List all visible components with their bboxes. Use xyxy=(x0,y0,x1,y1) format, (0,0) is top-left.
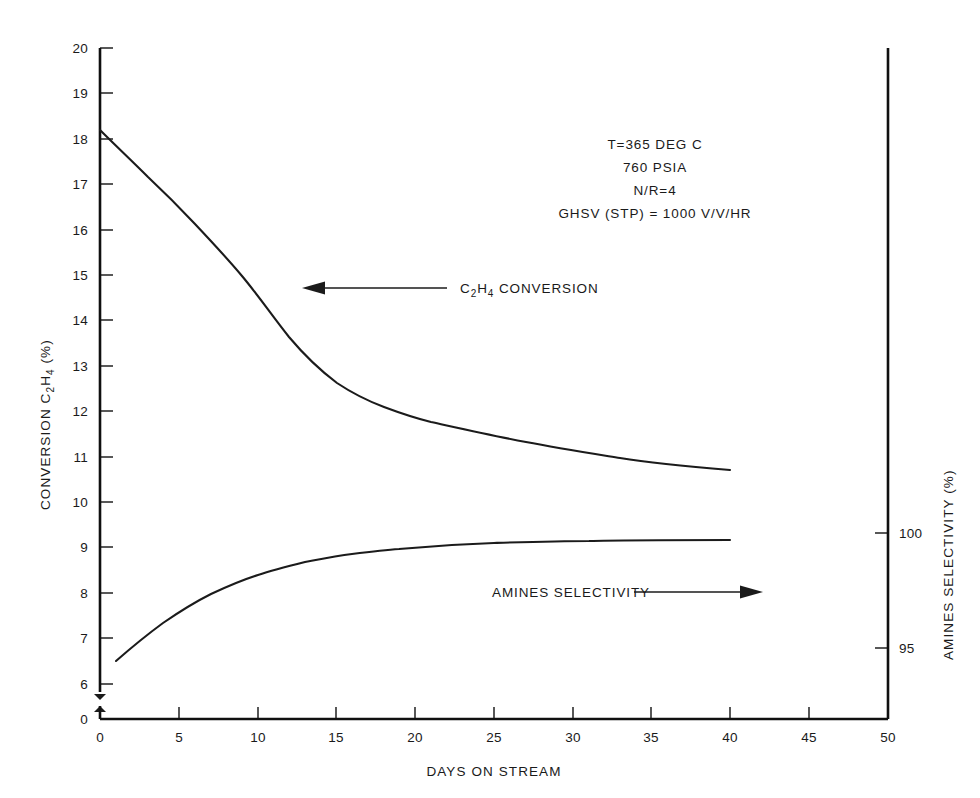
x-axis: 0 5 10 15 20 25 30 35 40 45 50 DAYS ON S… xyxy=(96,707,896,779)
y-ticklabel-6: 6 xyxy=(80,677,88,692)
y-ticklabel-15: 15 xyxy=(73,268,88,283)
y-ticklabel-14: 14 xyxy=(73,313,89,328)
y-axis-left-title: CONVERSION C2H4 (%) xyxy=(38,339,56,510)
callout-conversion-h: H xyxy=(477,281,488,296)
y-ticklabel-20: 20 xyxy=(73,41,88,56)
conditions-annotation: T=365 DEG C 760 PSIA N/R=4 GHSV (STP) = … xyxy=(558,137,751,221)
x-ticklabel-50: 50 xyxy=(880,730,895,745)
condition-nr-ratio: N/R=4 xyxy=(633,183,676,198)
y-axis-left-title-sub1: 2 xyxy=(45,386,56,393)
y-right-ticklabel-100: 100 xyxy=(899,526,922,541)
y-right-ticklabel-95: 95 xyxy=(899,641,914,656)
x-axis-title: DAYS ON STREAM xyxy=(426,764,561,779)
x-ticklabel-45: 45 xyxy=(801,730,816,745)
callout-conversion-suffix: CONVERSION xyxy=(494,281,598,296)
y-axis-left-title-pre: CONVERSION C xyxy=(38,393,53,510)
y-ticklabel-7: 7 xyxy=(80,631,88,646)
callout-selectivity: AMINES SELECTIVITY xyxy=(492,585,763,600)
x-ticklabel-0: 0 xyxy=(96,730,104,745)
svg-text:AMINES SELECTIVITY (%): AMINES SELECTIVITY (%) xyxy=(941,470,956,661)
condition-ghsv: GHSV (STP) = 1000 V/V/HR xyxy=(558,206,751,221)
y-axis-right-title: AMINES SELECTIVITY (%) xyxy=(941,470,956,661)
condition-temperature: T=365 DEG C xyxy=(607,137,702,152)
y-ticklabel-18: 18 xyxy=(73,132,88,147)
x-ticklabel-5: 5 xyxy=(175,730,183,745)
y-ticklabel-10: 10 xyxy=(73,495,88,510)
y-ticklabel-19: 19 xyxy=(73,86,88,101)
y-axis-right: 100 95 AMINES SELECTIVITY (%) xyxy=(875,48,956,719)
x-ticklabel-30: 30 xyxy=(565,730,580,745)
right-arrow-icon xyxy=(740,586,763,599)
left-arrow-icon xyxy=(302,282,325,295)
y-ticklabel-8: 8 xyxy=(80,586,88,601)
x-ticklabel-40: 40 xyxy=(722,730,737,745)
svg-text:CONVERSION C2H4 (%): CONVERSION C2H4 (%) xyxy=(38,339,56,510)
callout-conversion-label: C2H4 CONVERSION xyxy=(460,281,599,299)
y-ticklabel-11: 11 xyxy=(74,450,88,465)
y-ticklabel-12: 12 xyxy=(73,404,88,419)
y-ticklabel-0: 0 xyxy=(80,712,88,727)
y-ticklabel-13: 13 xyxy=(73,359,88,374)
y-axis-left-title-post: (%) xyxy=(38,339,53,368)
chart-svg: 20 19 18 17 16 15 14 13 12 11 10 9 8 7 6… xyxy=(0,0,980,798)
chart-figure: 20 19 18 17 16 15 14 13 12 11 10 9 8 7 6… xyxy=(0,0,980,798)
x-ticklabel-15: 15 xyxy=(328,730,343,745)
series-curve-conversion xyxy=(100,130,730,470)
y-axis-left-title-sub2: 4 xyxy=(45,368,56,375)
callout-conversion-c: C xyxy=(460,281,471,296)
x-ticklabel-20: 20 xyxy=(407,730,422,745)
callout-selectivity-label: AMINES SELECTIVITY xyxy=(492,585,650,600)
x-ticklabel-10: 10 xyxy=(250,730,265,745)
y-ticklabel-17: 17 xyxy=(73,177,88,192)
y-axis-left-title-mid: H xyxy=(38,375,53,386)
condition-pressure: 760 PSIA xyxy=(623,160,687,175)
callout-conversion: C2H4 CONVERSION xyxy=(302,281,599,299)
y-ticklabel-16: 16 xyxy=(73,223,88,238)
x-ticklabel-35: 35 xyxy=(643,730,658,745)
y-ticklabel-9: 9 xyxy=(80,540,88,555)
y-axis-left: 20 19 18 17 16 15 14 13 12 11 10 9 8 7 6… xyxy=(38,41,113,727)
series-curve-selectivity xyxy=(116,540,730,661)
x-ticklabel-25: 25 xyxy=(486,730,501,745)
